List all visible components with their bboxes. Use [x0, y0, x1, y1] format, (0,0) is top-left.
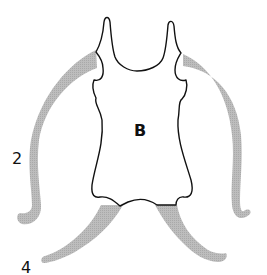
- right-side-limb: [183, 54, 251, 218]
- bottom-limb-label: 4: [21, 260, 31, 275]
- diagram-stage: B 2 4: [0, 0, 267, 275]
- left-bottom-limb: [41, 205, 123, 263]
- left-side-limb: [17, 50, 97, 224]
- central-body-outline: [92, 18, 192, 207]
- side-limb-label: 2: [12, 151, 22, 167]
- right-bottom-limb: [155, 205, 227, 262]
- body-label: B: [134, 123, 146, 139]
